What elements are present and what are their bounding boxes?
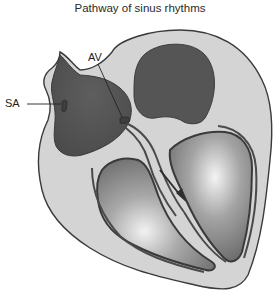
av-label: AV xyxy=(88,51,102,63)
left-atrium xyxy=(134,44,214,124)
heart-diagram xyxy=(0,0,280,300)
av-node xyxy=(120,117,130,123)
sa-label: SA xyxy=(5,97,20,109)
